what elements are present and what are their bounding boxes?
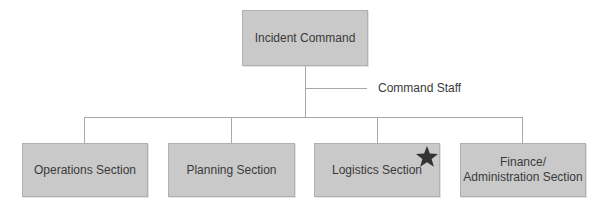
star-icon [415,145,439,169]
drop-logistics [377,117,378,143]
incident-command-label: Incident Command [255,31,356,46]
planning-section-label: Planning Section [186,163,276,178]
finance-administration-section-box: Finance/ Administration Section [460,143,586,197]
incident-command-box: Incident Command [242,10,368,66]
drop-finance [522,117,523,143]
command-staff-connector [305,88,367,89]
finance-label-line1: Finance/ [500,155,546,170]
command-staff-label: Command Staff [378,81,461,95]
drop-planning [231,117,232,143]
finance-label-line2: Administration Section [463,170,582,185]
logistics-section-label: Logistics Section [332,163,422,178]
trunk-connector [305,66,306,118]
section-bus-connector [84,117,523,118]
operations-section-box: Operations Section [22,143,148,197]
operations-section-label: Operations Section [34,163,136,178]
planning-section-box: Planning Section [168,143,295,197]
drop-operations [84,117,85,143]
